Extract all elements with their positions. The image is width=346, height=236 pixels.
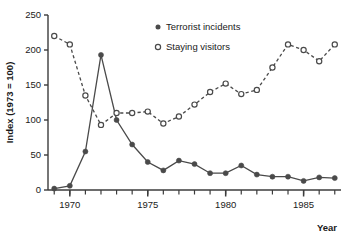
y-tick-label: 100 [25,114,41,125]
data-point-open [301,47,306,52]
y-axis-title: Index (1973 = 100) [4,62,15,144]
data-point-filled [83,149,88,154]
data-point-filled [176,158,181,163]
data-point-filled [192,162,197,167]
data-point-filled [145,160,150,165]
data-point-filled [223,171,228,176]
data-point-filled [98,52,103,57]
data-point-filled [239,163,244,168]
legend-marker-filled-circle-icon [156,25,161,30]
data-point-filled [52,186,57,191]
legend-item-label: Terrorist incidents [166,21,241,32]
data-point-filled [332,176,337,181]
chart-container: 0501001502002501970197519801985Index (19… [0,0,346,236]
x-tick-label: 1970 [59,199,80,210]
x-tick-label: 1975 [137,199,158,210]
y-tick-label: 0 [36,184,41,195]
data-point-open [83,93,88,98]
data-point-filled [301,178,306,183]
data-point-open [285,42,290,47]
data-point-open [98,122,103,127]
data-point-filled [161,168,166,173]
data-point-filled [67,183,72,188]
data-point-open [270,65,275,70]
data-point-filled [317,175,322,180]
data-point-filled [254,172,259,177]
y-tick-label: 250 [25,9,41,20]
data-point-open [67,42,72,47]
data-point-filled [270,174,275,179]
y-tick-label: 50 [30,149,41,160]
data-point-open [254,87,259,92]
data-point-open [192,102,197,107]
data-point-open [52,33,57,38]
data-point-open [130,110,135,115]
line-chart: 0501001502002501970197519801985Index (19… [0,0,346,236]
x-tick-label: 1980 [215,199,236,210]
x-tick-label: 1985 [293,199,314,210]
data-point-filled [114,118,119,123]
data-point-open [332,42,337,47]
data-point-open [114,110,119,115]
data-point-filled [208,171,213,176]
data-point-open [317,59,322,64]
data-point-filled [286,174,291,179]
data-point-open [145,109,150,114]
data-point-filled [130,142,135,147]
data-point-open [207,89,212,94]
x-axis-title: Year [317,222,337,233]
data-point-open [161,121,166,126]
data-point-open [176,114,181,119]
data-point-open [239,92,244,97]
data-point-open [223,81,228,86]
y-tick-label: 200 [25,44,41,55]
legend: Terrorist incidentsStaying visitors [155,21,240,52]
legend-marker-open-circle-icon [155,44,160,49]
series-terrorist-incidents [52,52,338,191]
legend-item-label: Staying visitors [166,41,230,52]
series-line [54,55,335,189]
y-tick-label: 150 [25,79,41,90]
